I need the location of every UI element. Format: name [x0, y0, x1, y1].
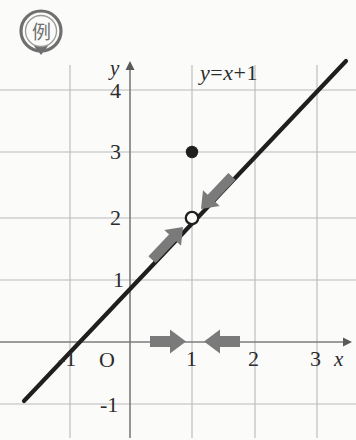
curve-approach-arrow-down [193, 168, 241, 216]
x-axis-arrowhead [343, 338, 352, 347]
open-point [186, 212, 198, 224]
x-axis-label: x [334, 349, 343, 370]
equation-plus: + [233, 60, 246, 85]
y-axis-label: y [110, 58, 119, 79]
origin-label: O [99, 349, 115, 371]
x-approach-arrow-right [150, 330, 186, 354]
equation-annotation: y=x+1 [200, 62, 258, 84]
equation-lhs: y [200, 60, 210, 85]
y-tick-1: 1 [113, 269, 124, 291]
vertical-gridlines [70, 65, 317, 438]
y-tick-4: 4 [110, 80, 121, 102]
x-tick-1: 1 [186, 348, 197, 370]
curve-approach-arrow-up [144, 219, 192, 267]
x-tick-3: 3 [310, 348, 321, 370]
graph-figure: 例 [0, 0, 356, 440]
plot-canvas [0, 0, 356, 440]
x-approach-arrow-left [204, 330, 240, 354]
equation-rhs-const: 1 [246, 60, 258, 85]
horizontal-gridlines [0, 90, 356, 404]
y-tick-2: 2 [110, 207, 121, 229]
x-tick-minus-1: -1 [58, 348, 76, 370]
x-tick-2: 2 [248, 348, 259, 370]
axes [0, 61, 352, 438]
y-axis-arrowhead [126, 61, 135, 70]
equation-rhs-var: x [223, 60, 233, 85]
equation-equals: = [210, 60, 223, 85]
y-tick-3: 3 [110, 141, 121, 163]
filled-point [186, 146, 198, 158]
y-tick-minus-1: -1 [100, 394, 118, 416]
